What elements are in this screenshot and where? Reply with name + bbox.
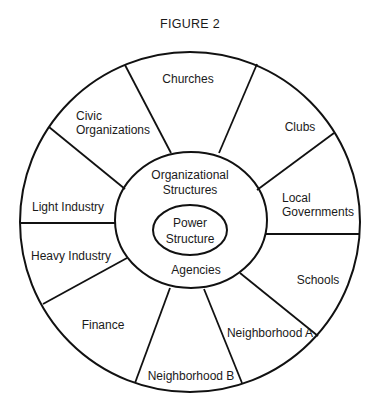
- segment-label-light-industry: Light Industry: [32, 200, 104, 214]
- segment-label-local-governments-line2: Governments: [282, 205, 354, 219]
- divider-churches-clubs: [219, 64, 257, 153]
- segment-label-civic-organizations-line2: Organizations: [76, 123, 150, 137]
- power-structure-core: [153, 205, 227, 255]
- center-label-line2: Structure: [166, 232, 215, 246]
- segment-label-churches: Churches: [162, 72, 213, 86]
- segment-label-clubs: Clubs: [285, 120, 316, 134]
- middle-ring-bottom: Agencies: [171, 263, 220, 277]
- figure-2-diagram: FIGURE 2 Power Structure Organizational …: [0, 0, 378, 412]
- divider-finance-heavy: [43, 258, 127, 304]
- segment-label-neighborhood-a: Neighborhood A: [227, 326, 313, 340]
- middle-ring-top-line1: Organizational: [151, 168, 228, 182]
- figure-title: FIGURE 2: [160, 17, 220, 31]
- segment-label-civic-organizations-line1: Civic: [76, 109, 102, 123]
- segment-label-heavy-industry: Heavy Industry: [31, 249, 111, 263]
- middle-ring-top-line2: Structures: [163, 183, 218, 197]
- center-label-line1: Power: [173, 216, 207, 230]
- divider-clubs-local: [257, 133, 334, 190]
- segment-label-neighborhood-b: Neighborhood B: [148, 369, 235, 383]
- segment-label-local-governments-line1: Local: [282, 191, 311, 205]
- segment-label-finance: Finance: [82, 318, 125, 332]
- segment-label-schools: Schools: [297, 273, 340, 287]
